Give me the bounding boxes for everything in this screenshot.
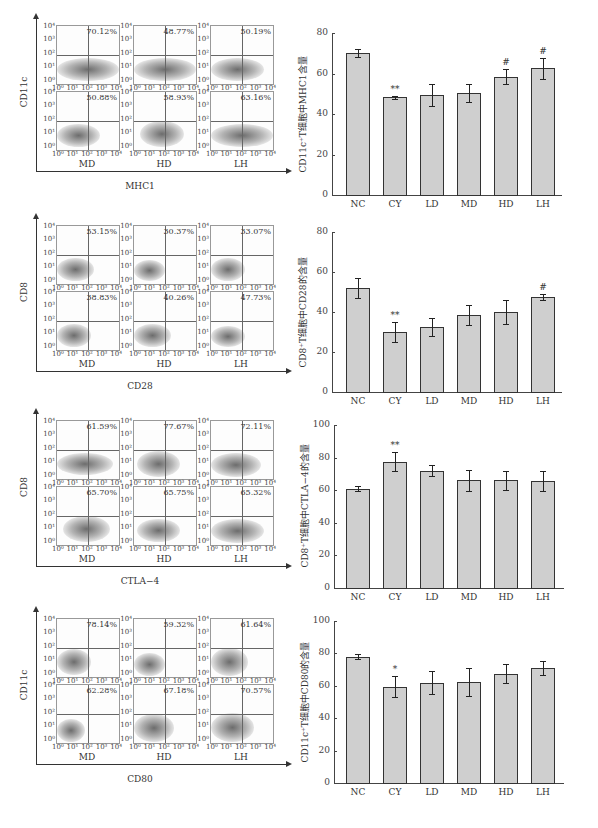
error-bar-cap bbox=[355, 486, 361, 487]
bar-chart-y-tick bbox=[332, 272, 335, 273]
flow-y-tick: 10⁴ bbox=[195, 22, 209, 30]
bar-chart-y-tick bbox=[334, 425, 337, 426]
bar-chart-y-tick-label: 40 bbox=[310, 712, 330, 722]
bar-chart-category-label: NC bbox=[343, 787, 373, 797]
bar-cy bbox=[383, 97, 407, 196]
flow-y-tick: 10² bbox=[118, 444, 132, 452]
scatter-density bbox=[57, 124, 100, 147]
error-bar-cap bbox=[355, 278, 361, 279]
bar-chart-category-label: HD bbox=[491, 396, 521, 406]
flow-plot-md: 50.88% bbox=[56, 91, 120, 151]
flow-y-tick: 10¹ bbox=[41, 62, 55, 70]
flow-y-tick: 10² bbox=[195, 708, 209, 716]
quadrant-horizontal-line bbox=[134, 516, 196, 517]
flow-y-axis-title: CD11c bbox=[19, 72, 29, 112]
error-bar-cap bbox=[392, 452, 398, 453]
group-label: LH bbox=[211, 359, 271, 369]
flow-y-tick: 10⁰ bbox=[195, 76, 209, 84]
error-bar-cap bbox=[429, 465, 435, 466]
flow-plot-hd: 67.18% bbox=[133, 684, 197, 744]
quadrant-horizontal-line bbox=[211, 255, 273, 256]
flow-y-tick: 10⁰ bbox=[41, 276, 55, 284]
flow-y-tick: 10⁴ bbox=[195, 615, 209, 623]
error-bar-cap bbox=[466, 491, 472, 492]
flow-x-tick: 10¹ bbox=[221, 350, 233, 358]
flow-y-tick: 10² bbox=[195, 642, 209, 650]
flow-y-tick: 10⁴ bbox=[118, 88, 132, 96]
error-bar-cap bbox=[503, 683, 509, 684]
error-bar-cap bbox=[466, 102, 472, 103]
flow-x-tick: 10⁴ bbox=[110, 150, 122, 158]
flow-y-tick: 10⁰ bbox=[118, 735, 132, 743]
scatter-density bbox=[211, 58, 264, 81]
flow-x-tick: 10² bbox=[235, 150, 247, 158]
group-label: HD bbox=[134, 359, 194, 369]
quadrant-horizontal-line bbox=[211, 516, 273, 517]
bar-hd bbox=[494, 674, 518, 784]
flow-y-axis-arrowhead bbox=[33, 213, 39, 219]
quadrant-percentage: 33.07% bbox=[240, 227, 271, 236]
error-bar-cap bbox=[466, 325, 472, 326]
flow-y-tick: 10¹ bbox=[195, 721, 209, 729]
flow-y-tick: 10³ bbox=[41, 694, 55, 702]
flow-y-tick: 10⁰ bbox=[41, 471, 55, 479]
flow-y-tick: 10¹ bbox=[195, 655, 209, 663]
bar-lh bbox=[531, 481, 555, 589]
quadrant-percentage: 40.26% bbox=[163, 293, 194, 302]
bar-chart-category-label: NC bbox=[343, 396, 373, 406]
group-label: LH bbox=[211, 159, 271, 169]
scatter-density bbox=[211, 258, 245, 281]
flow-y-tick: 10⁰ bbox=[195, 735, 209, 743]
flow-x-tick: 10¹ bbox=[67, 545, 79, 553]
error-bar bbox=[432, 671, 433, 694]
flow-y-tick: 10⁰ bbox=[118, 76, 132, 84]
flow-x-tick: 10⁴ bbox=[264, 545, 276, 553]
error-bar bbox=[506, 471, 507, 491]
significance-marker: * bbox=[385, 664, 405, 674]
flow-x-tick: 10¹ bbox=[144, 350, 156, 358]
flow-x-axis bbox=[36, 371, 288, 372]
flow-x-tick: 10⁴ bbox=[110, 545, 122, 553]
bar-chart-category-label: LH bbox=[528, 396, 558, 406]
quadrant-percentage: 58.93% bbox=[163, 93, 194, 102]
bar-chart-y-tick bbox=[334, 523, 337, 524]
bar-chart-y-tick bbox=[332, 74, 335, 75]
error-bar-cap bbox=[355, 57, 361, 58]
flow-y-tick: 10¹ bbox=[195, 457, 209, 465]
bar-ld bbox=[420, 683, 444, 784]
flow-x-axis-title: CTLA−4 bbox=[100, 576, 180, 586]
error-bar bbox=[543, 661, 544, 676]
flow-plot-ld: 72.11% bbox=[210, 420, 274, 480]
bar-chart-y-tick bbox=[334, 555, 337, 556]
flow-y-tick: 10³ bbox=[195, 496, 209, 504]
quadrant-horizontal-line bbox=[134, 255, 196, 256]
flow-x-tick: 10⁴ bbox=[187, 545, 199, 553]
group-label: HD bbox=[134, 752, 194, 762]
flow-y-tick: 10³ bbox=[195, 430, 209, 438]
flow-y-tick: 10¹ bbox=[41, 655, 55, 663]
bar-chart-y-tick-label: 20 bbox=[308, 346, 328, 356]
bar-chart-y-tick bbox=[334, 653, 337, 654]
flow-y-tick: 10⁴ bbox=[195, 681, 209, 689]
flow-x-tick: 10³ bbox=[250, 743, 262, 751]
bar-chart-category-label: LD bbox=[417, 396, 447, 406]
bar-chart-category-label: CY bbox=[380, 592, 410, 602]
error-bar-cap bbox=[429, 476, 435, 477]
scatter-density bbox=[137, 519, 180, 542]
flow-x-tick: 10³ bbox=[173, 545, 185, 553]
error-bar-cap bbox=[429, 336, 435, 337]
error-bar-cap bbox=[392, 96, 398, 97]
flow-y-tick: 10² bbox=[41, 315, 55, 323]
group-label: MD bbox=[57, 359, 117, 369]
bar-chart-y-tick-label: 60 bbox=[310, 484, 330, 494]
scatter-density bbox=[57, 453, 113, 475]
flow-x-tick: 10³ bbox=[173, 350, 185, 358]
bar-chart-category-label: LH bbox=[528, 787, 558, 797]
bar-chart-y-tick-label: 0 bbox=[308, 189, 328, 199]
bar-chart-y-tick-label: 80 bbox=[308, 226, 328, 236]
flow-y-tick: 10³ bbox=[41, 101, 55, 109]
flow-x-tick: 10² bbox=[81, 743, 93, 751]
flow-plot-hd: 40.26% bbox=[133, 291, 197, 351]
flow-x-tick: 10⁰ bbox=[206, 545, 218, 553]
flow-x-tick: 10² bbox=[81, 545, 93, 553]
